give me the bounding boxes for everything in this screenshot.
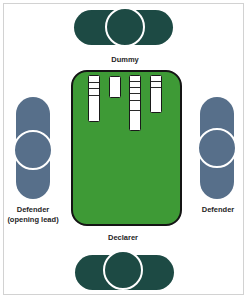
card-divider [89, 88, 99, 89]
card-divider [130, 100, 140, 101]
declarer-label: Declarer [93, 233, 153, 243]
east-defender-player-circle [197, 128, 237, 168]
declarer-player-circle [103, 250, 143, 290]
dummy-card-column-1 [88, 75, 100, 122]
west-defender-player-circle [13, 130, 53, 170]
card-divider [151, 81, 161, 82]
west-defender-label-line1: Defender [3, 205, 63, 215]
card-divider [89, 82, 99, 83]
dummy-label: Dummy [95, 55, 155, 65]
card-divider [151, 87, 161, 88]
card-divider [130, 81, 140, 82]
card-divider [130, 93, 140, 94]
card-divider [130, 110, 140, 111]
west-defender-label: Defender (opening lead) [3, 205, 63, 225]
dummy-card-column-4 [150, 75, 162, 113]
card-divider [130, 87, 140, 88]
dummy-card-column-3 [129, 75, 141, 131]
dummy-player-circle [105, 7, 145, 47]
east-defender-label: Defender [188, 205, 248, 215]
west-defender-label-line2: (opening lead) [3, 215, 63, 225]
card-divider [89, 95, 99, 96]
dummy-card-column-2 [109, 76, 121, 98]
